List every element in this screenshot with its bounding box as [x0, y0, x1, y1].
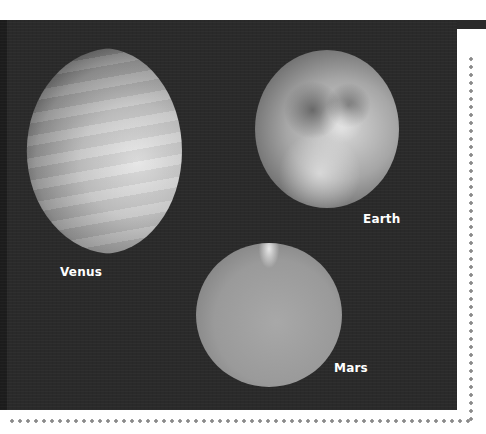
panel-left-edge [0, 20, 7, 410]
dotted-border-bottom [8, 419, 474, 423]
earth-image [255, 50, 399, 208]
earth-label: Earth [363, 212, 401, 226]
mars-label: Mars [334, 361, 368, 375]
dotted-border-right [469, 55, 473, 423]
mars-image [196, 243, 342, 387]
venus-label: Venus [60, 265, 102, 279]
